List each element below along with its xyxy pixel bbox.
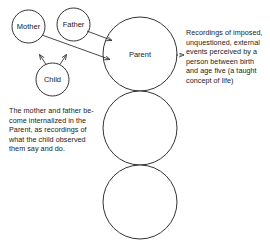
child-label: Child xyxy=(44,75,61,84)
parent-description-text: Recordings of imposed, unquestioned, ext… xyxy=(186,28,270,86)
adult-circle xyxy=(103,91,177,165)
child-state-circle xyxy=(103,165,177,239)
parent-label: Parent xyxy=(129,50,152,59)
mother-label: Mother xyxy=(17,22,41,31)
internalization-description-text: The mother and father be- come internali… xyxy=(9,106,95,154)
child-to-father-arrow xyxy=(60,55,67,65)
father-label: Father xyxy=(63,20,85,29)
child-to-mother-arrow xyxy=(40,55,47,65)
